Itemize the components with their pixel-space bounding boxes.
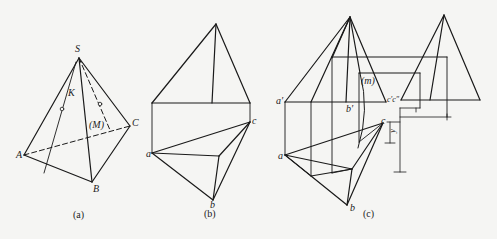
figure-b-projections <box>152 24 250 200</box>
caption-b: (b) <box>204 209 216 219</box>
label-K: K <box>68 88 75 98</box>
label-B: B <box>93 184 99 194</box>
label-dimension-y: y <box>389 129 397 133</box>
label-c-b: b <box>350 203 355 213</box>
figure-c-projections <box>285 15 480 205</box>
label-c-primes: c′c″ <box>387 96 399 104</box>
figure-a-pyramid <box>24 58 130 182</box>
label-c-c: c <box>381 116 385 126</box>
caption-a: (a) <box>73 210 84 220</box>
label-A: A <box>16 150 22 160</box>
label-S: S <box>75 44 80 54</box>
label-b-prime: b′ <box>346 104 353 114</box>
triangular-pyramid-projection-figure: S K (M) C A B (a) a c b (b) a′ b′ (m) c′… <box>0 0 497 239</box>
label-M: (M) <box>89 120 104 130</box>
label-b-a: a <box>146 149 151 159</box>
caption-c: (c) <box>363 209 374 219</box>
label-b-c: c <box>252 116 256 126</box>
label-C: C <box>132 118 139 128</box>
label-a-prime: a′ <box>276 96 283 106</box>
label-m: (m) <box>361 76 375 86</box>
line-drawings <box>0 0 497 239</box>
label-c-a: a <box>278 151 283 161</box>
